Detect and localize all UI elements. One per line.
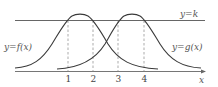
label-y-equals-f-x: y=f(x)	[3, 42, 33, 52]
x-axis-arrow-icon	[201, 70, 206, 74]
tick-label-4: 4	[142, 74, 148, 84]
label-x-axis: x	[199, 75, 204, 85]
curve-f	[15, 14, 158, 69]
graph-canvas: y=k y=f(x) y=g(x) x 1 2 3 4	[0, 0, 218, 87]
tick-label-1: 1	[66, 74, 72, 84]
tick-label-2: 2	[91, 74, 97, 84]
label-y-equals-g-x: y=g(x)	[171, 42, 203, 52]
tick-label-3: 3	[116, 74, 122, 84]
label-y-equals-k: y=k	[179, 9, 198, 19]
function-graph: y=k y=f(x) y=g(x) x 1 2 3 4	[0, 0, 218, 87]
